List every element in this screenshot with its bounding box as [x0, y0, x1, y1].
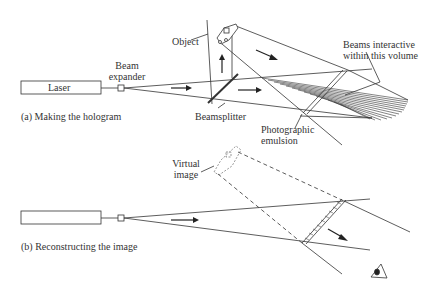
emulsion-label-line1: Photographic — [261, 124, 314, 135]
beamsplitter-label: Beamsplitter — [195, 111, 246, 122]
caption-a: (a) Making the hologram — [21, 111, 121, 122]
object-icon — [217, 24, 238, 44]
laser-box-b — [21, 211, 101, 224]
beamsplitter — [208, 74, 238, 103]
volume-label-line2: within this volume — [343, 50, 418, 61]
emulsion-label-line2: emulsion — [261, 135, 314, 146]
laser-label: Laser — [48, 82, 70, 93]
virtual-image-label: Virtual image — [168, 158, 204, 180]
object-label: Object — [172, 36, 199, 47]
volume-label: Beams interactive within this volume — [343, 39, 418, 61]
emulsion-label: Photographic emulsion — [261, 124, 314, 146]
beam-expander-label: Beam expander — [107, 60, 147, 82]
virtual-image-icon — [214, 146, 241, 175]
virtual-image-label-line1: Virtual — [168, 158, 204, 169]
caption-b: (b) Reconstructing the image — [21, 241, 137, 252]
eye-icon — [371, 264, 387, 278]
virtual-image-label-line2: image — [168, 169, 204, 180]
volume-label-line1: Beams interactive — [343, 39, 418, 50]
beam-expander-b — [118, 215, 124, 221]
beam-expander-label-line1: Beam — [107, 60, 147, 71]
beam-expander-label-line2: expander — [107, 71, 147, 82]
beam-expander — [118, 85, 124, 91]
